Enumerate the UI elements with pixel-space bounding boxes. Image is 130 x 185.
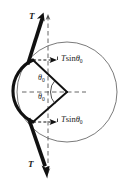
physics-force-diagram: [0, 0, 130, 185]
angle-upper-subscript: 0: [42, 77, 45, 83]
angle-lower-subscript: 0: [42, 96, 45, 102]
angle-label-lower: θ0: [38, 93, 45, 101]
tension-label-bottom: T: [28, 160, 34, 169]
force-top-subscript: 0: [80, 58, 83, 64]
force-top-function: sin: [66, 53, 76, 63]
force-component-label-bottom: Tsinθ0: [61, 115, 83, 124]
force-bottom-subscript: 0: [80, 119, 83, 125]
force-bottom-function: sin: [66, 114, 76, 124]
tension-label-top: T: [29, 12, 35, 21]
force-component-label-top: Tsinθ0: [61, 54, 83, 63]
angle-label-upper: θ0: [38, 74, 45, 82]
